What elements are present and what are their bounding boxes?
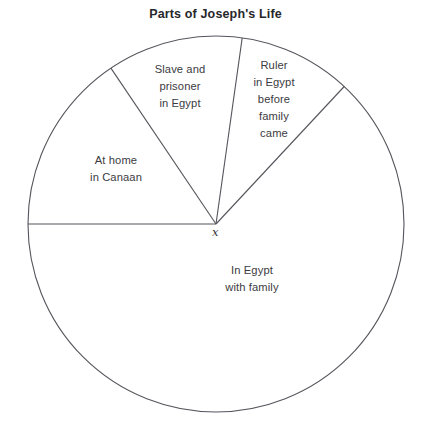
- pie-chart-page: Parts of Joseph's Life At home in Canaan…: [0, 0, 431, 435]
- slice-label-in-egypt-with-family: In Egypt with family: [197, 262, 307, 296]
- slice-label-slave-and-prisoner-in-egypt: Slave and prisoner in Egypt: [125, 61, 235, 112]
- slice-label-at-home-in-canaan: At home in Canaan: [46, 152, 186, 186]
- unknown-angle-label-x: x: [212, 225, 219, 239]
- slice-label-ruler-in-egypt-before-family-came: Ruler in Egypt before family came: [238, 57, 310, 142]
